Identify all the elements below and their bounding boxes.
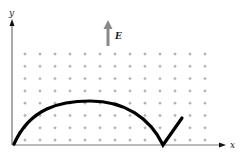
field-dot-cross-icon <box>23 138 27 142</box>
arrow-up-icon <box>104 20 113 29</box>
field-dot-cross-icon <box>158 52 162 56</box>
field-dot-cross-icon <box>98 138 102 142</box>
field-dot-cross-icon <box>128 138 132 142</box>
electric-field-arrow: E <box>104 20 123 46</box>
field-dot-cross-icon <box>128 89 132 93</box>
field-dot-cross-icon <box>158 114 162 118</box>
field-dot-cross-icon <box>23 52 27 56</box>
field-dot-grid <box>23 52 207 142</box>
field-dot-cross-icon <box>128 101 132 105</box>
field-dot-cross-icon <box>113 138 117 142</box>
field-dot-cross-icon <box>23 65 27 69</box>
field-dot-cross-icon <box>173 77 177 81</box>
field-dot-cross-icon <box>38 52 42 56</box>
field-dot-cross-icon <box>113 89 117 93</box>
field-dot-cross-icon <box>158 65 162 69</box>
field-dot-cross-icon <box>53 65 57 69</box>
field-dot-cross-icon <box>98 89 102 93</box>
field-dot-cross-icon <box>203 138 207 142</box>
field-dot-cross-icon <box>98 126 102 130</box>
field-dot-cross-icon <box>38 77 42 81</box>
field-dot-cross-icon <box>158 77 162 81</box>
field-dot-cross-icon <box>83 52 87 56</box>
field-dot-cross-icon <box>38 65 42 69</box>
field-dot-cross-icon <box>113 77 117 81</box>
field-dot-cross-icon <box>188 77 192 81</box>
field-dot-cross-icon <box>68 138 72 142</box>
field-dot-cross-icon <box>158 101 162 105</box>
field-dot-cross-icon <box>143 65 147 69</box>
field-dot-cross-icon <box>173 52 177 56</box>
field-dot-cross-icon <box>143 138 147 142</box>
field-dot-cross-icon <box>173 138 177 142</box>
field-dot-cross-icon <box>68 114 72 118</box>
field-dot-cross-icon <box>53 138 57 142</box>
field-dot-cross-icon <box>38 101 42 105</box>
field-dot-cross-icon <box>53 52 57 56</box>
field-dot-cross-icon <box>143 126 147 130</box>
field-dot-cross-icon <box>188 101 192 105</box>
field-dot-cross-icon <box>68 52 72 56</box>
field-dot-cross-icon <box>173 65 177 69</box>
field-dot-cross-icon <box>38 138 42 142</box>
field-dot-cross-icon <box>23 101 27 105</box>
field-dot-cross-icon <box>203 52 207 56</box>
field-dot-cross-icon <box>83 65 87 69</box>
field-dot-cross-icon <box>173 114 177 118</box>
field-dot-cross-icon <box>98 114 102 118</box>
field-dot-cross-icon <box>188 52 192 56</box>
field-dot-cross-icon <box>173 89 177 93</box>
field-dot-cross-icon <box>83 89 87 93</box>
field-dot-cross-icon <box>53 114 57 118</box>
field-dot-cross-icon <box>143 101 147 105</box>
field-dot-cross-icon <box>128 114 132 118</box>
diagram-canvas: y x E <box>0 0 242 156</box>
field-dot-cross-icon <box>38 89 42 93</box>
x-axis-arrowhead-icon <box>219 143 226 148</box>
field-dot-cross-icon <box>158 126 162 130</box>
field-dot-cross-icon <box>203 65 207 69</box>
field-dot-cross-icon <box>128 65 132 69</box>
field-dot-cross-icon <box>113 65 117 69</box>
field-dot-cross-icon <box>98 52 102 56</box>
field-dot-cross-icon <box>23 77 27 81</box>
field-dot-cross-icon <box>203 126 207 130</box>
field-dot-cross-icon <box>83 77 87 81</box>
field-dot-cross-icon <box>188 114 192 118</box>
field-label: E <box>114 31 122 41</box>
y-axis-arrowhead-icon <box>10 19 15 26</box>
field-dot-cross-icon <box>113 114 117 118</box>
field-dot-cross-icon <box>83 138 87 142</box>
field-dot-cross-icon <box>188 89 192 93</box>
field-dot-cross-icon <box>68 126 72 130</box>
field-dot-cross-icon <box>203 114 207 118</box>
field-dot-cross-icon <box>98 65 102 69</box>
field-dot-cross-icon <box>203 101 207 105</box>
particle-trajectory <box>14 101 182 145</box>
field-dot-cross-icon <box>23 89 27 93</box>
field-dot-cross-icon <box>128 52 132 56</box>
field-dot-cross-icon <box>53 89 57 93</box>
field-dot-cross-icon <box>188 65 192 69</box>
field-dot-cross-icon <box>68 77 72 81</box>
field-dot-cross-icon <box>38 126 42 130</box>
field-dot-cross-icon <box>68 89 72 93</box>
arrow-shaft <box>107 28 110 46</box>
y-axis-label: y <box>8 8 15 18</box>
field-dot-cross-icon <box>98 77 102 81</box>
field-dot-cross-icon <box>53 77 57 81</box>
x-axis-label: x <box>230 140 235 150</box>
field-dot-cross-icon <box>143 52 147 56</box>
field-dot-cross-icon <box>128 77 132 81</box>
field-dot-cross-icon <box>173 101 177 105</box>
field-dot-cross-icon <box>158 89 162 93</box>
field-dot-cross-icon <box>83 114 87 118</box>
field-dot-cross-icon <box>68 65 72 69</box>
field-dot-cross-icon <box>143 114 147 118</box>
field-dot-cross-icon <box>203 77 207 81</box>
field-dot-cross-icon <box>53 126 57 130</box>
field-dot-cross-icon <box>83 126 87 130</box>
field-dot-cross-icon <box>143 77 147 81</box>
axes: y x <box>8 8 235 150</box>
field-dot-cross-icon <box>203 89 207 93</box>
